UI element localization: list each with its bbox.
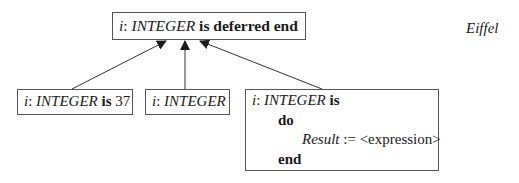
feature-type: INTEGER bbox=[132, 17, 196, 34]
do-keyword: do bbox=[278, 112, 294, 128]
result-var: Result bbox=[302, 131, 340, 147]
variable-attribute-box: i: INTEGER bbox=[145, 89, 230, 115]
end-keyword: end bbox=[278, 151, 301, 167]
deferred-keywords: is deferred end bbox=[195, 17, 298, 34]
language-label: Eiffel bbox=[466, 20, 499, 37]
constant-attribute-box: i: INTEGER is 37 bbox=[17, 89, 133, 115]
function-box: i: INTEGER is do Result := <expression> … bbox=[245, 89, 439, 171]
deferred-feature-box: i: INTEGER is deferred end bbox=[112, 12, 306, 40]
